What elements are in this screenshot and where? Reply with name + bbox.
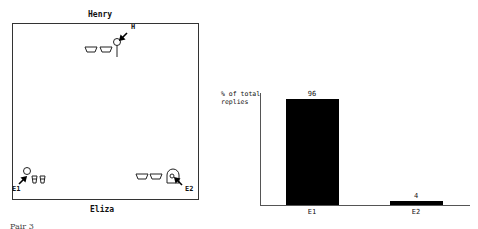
room-diagram: H E1 E2 xyxy=(12,23,199,200)
marker-h: H xyxy=(131,23,135,31)
e1-figure-icon xyxy=(24,168,31,175)
room-figures xyxy=(12,23,199,200)
e1-arrow-icon xyxy=(19,177,26,184)
y-axis-label-line1: % of total xyxy=(221,90,260,98)
marker-e2: E2 xyxy=(185,185,193,193)
x-tick-e2: E2 xyxy=(389,208,443,216)
bar-e1 xyxy=(286,99,339,205)
marker-e1: E1 xyxy=(12,185,20,193)
henry-cups-icon xyxy=(85,47,112,52)
y-axis-label-line2: replies xyxy=(221,98,260,106)
figure-caption: Pair 3 xyxy=(10,222,34,229)
bottom-label-eliza: Eliza xyxy=(90,205,114,214)
y-axis-label: % of total replies xyxy=(221,90,260,106)
y-axis xyxy=(260,93,261,205)
e2-arrow-icon xyxy=(175,178,182,185)
bar-e1-value: 96 xyxy=(285,90,339,98)
e1-glasses-icon xyxy=(32,176,45,183)
e2-cups-icon xyxy=(136,174,162,179)
top-label-henry: Henry xyxy=(88,10,112,19)
henry-arrow-icon xyxy=(120,33,127,40)
bar-e2 xyxy=(390,201,443,205)
x-tick-e1: E1 xyxy=(285,208,339,216)
bar-e2-value: 4 xyxy=(389,192,443,200)
x-axis xyxy=(260,205,470,206)
henry-figure-icon xyxy=(114,39,121,58)
